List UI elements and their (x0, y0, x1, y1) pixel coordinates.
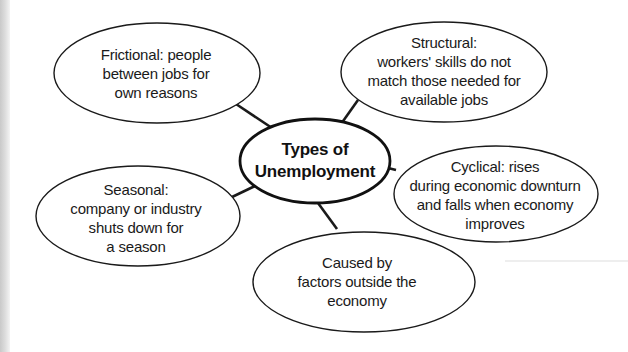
node-structural-label: Structural: workers' skills do not match… (367, 33, 520, 109)
cyclical-line-3: and falls when economy (409, 195, 580, 214)
center-label-line-1: Types of (255, 139, 375, 161)
node-external-label: Caused by factors outside the economy (298, 253, 417, 310)
node-seasonal-label: Seasonal: company or industry shuts down… (70, 180, 201, 256)
center-label-line-2: Unemployment (255, 161, 375, 183)
node-frictional-label: Frictional: people between jobs for own … (101, 45, 212, 102)
seasonal-line-3: shuts down for (70, 218, 201, 237)
cyclical-line-2: during economic downturn (409, 176, 580, 195)
structural-line-1: Structural: (367, 33, 520, 52)
connector-seasonal (232, 186, 255, 197)
center-node-label: Types of Unemployment (255, 139, 375, 183)
structural-line-3: match those needed for (367, 71, 520, 90)
cyclical-line-1: Cyclical: rises (409, 157, 580, 176)
connector-structural (341, 100, 358, 124)
seasonal-line-4: a season (70, 237, 201, 256)
external-line-3: economy (298, 291, 417, 310)
frictional-line-2: between jobs for (101, 64, 212, 83)
connector-external (318, 203, 337, 229)
node-cyclical-label: Cyclical: rises during economic downturn… (409, 157, 580, 233)
cyclical-line-4: improves (409, 214, 580, 233)
external-line-2: factors outside the (298, 272, 417, 291)
structural-line-4: available jobs (367, 90, 520, 109)
frictional-line-3: own reasons (101, 83, 212, 102)
external-line-1: Caused by (298, 253, 417, 272)
seasonal-line-1: Seasonal: (70, 180, 201, 199)
frictional-line-1: Frictional: people (101, 45, 212, 64)
structural-line-2: workers' skills do not (367, 52, 520, 71)
connector-frictional (236, 104, 272, 128)
seasonal-line-2: company or industry (70, 199, 201, 218)
